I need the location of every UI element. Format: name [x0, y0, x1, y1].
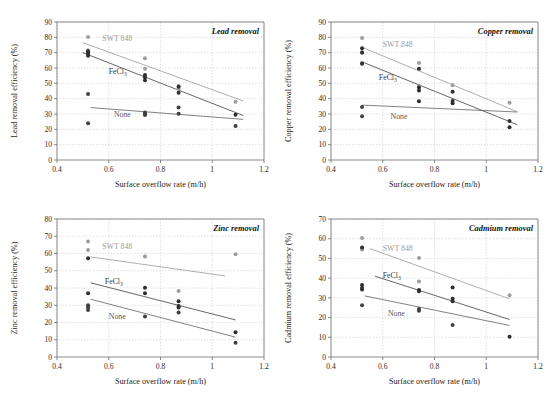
series-label-swt-848: SWT 848 — [383, 244, 413, 253]
panel-title: Lead removal — [211, 27, 260, 36]
y-axis-title-group: Zinc removal efficiency (%) — [10, 241, 19, 334]
y-tick-label: 10 — [44, 140, 52, 149]
data-point — [417, 289, 421, 293]
y-tick-label: 80 — [318, 33, 326, 42]
data-point — [143, 67, 147, 71]
series-label-swt-848: SWT 848 — [383, 40, 413, 49]
series-label-swt-848: SWT 848 — [102, 34, 132, 43]
data-point — [177, 305, 181, 309]
data-point — [417, 99, 421, 103]
x-axis-title: Surface overflow rate (m/h) — [389, 180, 480, 189]
y-axis-title: Zinc removal efficiency (%) — [10, 241, 19, 334]
data-point — [86, 239, 90, 243]
y-tick-label: 30 — [318, 110, 326, 119]
series-label-fecl3: FeCl3 — [105, 277, 123, 287]
x-tick-label: 0.4 — [326, 165, 336, 174]
y-tick-label: 20 — [44, 318, 52, 327]
trend-line-swt — [91, 257, 226, 276]
data-point — [86, 308, 90, 312]
y-tick-label: 70 — [318, 48, 326, 57]
y-tick-label: 20 — [318, 125, 326, 134]
x-tick-label: 1 — [484, 165, 488, 174]
data-point — [451, 83, 455, 87]
data-point — [86, 121, 90, 125]
data-point — [143, 56, 147, 60]
y-tick-label: 60 — [44, 64, 52, 73]
y-tick-label: 10 — [318, 140, 326, 149]
data-point — [177, 299, 181, 303]
x-axis-ticks: 0.40.60.811.2 — [326, 160, 543, 174]
data-point — [360, 287, 364, 291]
trend-line-fecl3 — [362, 62, 517, 125]
data-point — [360, 246, 364, 250]
y-axis-title: Cadmium removal efficiency (%) — [284, 233, 293, 343]
panel-cadmium: 0102030405060700.40.60.811.2Surface over… — [274, 197, 548, 395]
x-tick-label: 1.2 — [533, 165, 543, 174]
data-point — [143, 314, 147, 318]
x-tick-label: 0.6 — [104, 165, 114, 174]
y-tick-label: 40 — [318, 94, 326, 103]
data-point — [143, 255, 147, 259]
y-tick-label: 10 — [44, 335, 52, 344]
data-point — [417, 67, 421, 71]
series-label-fecl3: FeCl3 — [383, 271, 401, 281]
y-tick-label: 30 — [318, 294, 326, 303]
y-tick-label: 50 — [318, 254, 326, 263]
panel-lead: 01020304050607080900.40.60.811.2Surface … — [0, 0, 274, 198]
x-axis-ticks: 0.40.60.811.2 — [326, 357, 543, 371]
x-tick-label: 1.2 — [259, 362, 269, 371]
data-point — [234, 124, 238, 128]
data-point — [177, 91, 181, 95]
y-tick-label: 50 — [44, 79, 52, 88]
x-axis-ticks: 0.40.60.811.2 — [52, 160, 269, 174]
y-axis-ticks: 01020304050607080 — [44, 215, 57, 362]
trend-line-none — [365, 296, 510, 326]
y-axis-title: Copper removal efficiency (%) — [284, 40, 293, 142]
y-tick-label: 70 — [44, 48, 52, 57]
data-point — [234, 113, 238, 117]
y-tick-label: 70 — [44, 232, 52, 241]
data-point — [417, 279, 421, 283]
data-point — [86, 35, 90, 39]
x-tick-label: 0.8 — [156, 165, 166, 174]
panel-title: Copper removal — [478, 27, 534, 36]
data-point — [86, 248, 90, 252]
y-tick-label: 90 — [318, 18, 326, 27]
y-tick-label: 30 — [44, 301, 52, 310]
series-label-none: None — [388, 309, 405, 318]
y-axis-title-group: Copper removal efficiency (%) — [284, 40, 293, 142]
data-point — [143, 113, 147, 117]
x-tick-label: 0.8 — [156, 362, 166, 371]
y-tick-label: 60 — [318, 64, 326, 73]
y-axis-title-group: Lead removal efficiency (%) — [10, 44, 19, 138]
data-point — [143, 78, 147, 82]
series-label-none: None — [109, 312, 126, 321]
data-point — [360, 62, 364, 66]
panel-copper: 01020304050607080900.40.60.811.2Surface … — [274, 0, 548, 198]
data-point — [177, 106, 181, 110]
data-point — [508, 335, 512, 339]
y-tick-label: 50 — [318, 79, 326, 88]
series-label-swt-848: SWT 848 — [102, 242, 132, 251]
x-axis-ticks: 0.40.60.811.2 — [52, 357, 269, 371]
x-tick-label: 1.2 — [259, 165, 269, 174]
y-tick-label: 0 — [48, 353, 52, 362]
data-point — [360, 303, 364, 307]
trend-line-none — [362, 105, 517, 112]
data-point — [177, 85, 181, 89]
data-point — [177, 310, 181, 314]
data-point — [86, 256, 90, 260]
series-none — [360, 105, 364, 118]
data-point — [177, 112, 181, 116]
x-axis-title: Surface overflow rate (m/h) — [115, 180, 206, 189]
y-tick-label: 0 — [322, 353, 326, 362]
x-axis-title: Surface overflow rate (m/h) — [389, 377, 480, 386]
y-tick-label: 30 — [44, 110, 52, 119]
trend-lines — [83, 43, 243, 120]
data-point — [234, 252, 238, 256]
x-tick-label: 1 — [210, 165, 214, 174]
data-point — [360, 36, 364, 40]
trend-lines — [365, 249, 510, 326]
x-tick-label: 0.8 — [430, 362, 440, 371]
data-point — [417, 256, 421, 260]
